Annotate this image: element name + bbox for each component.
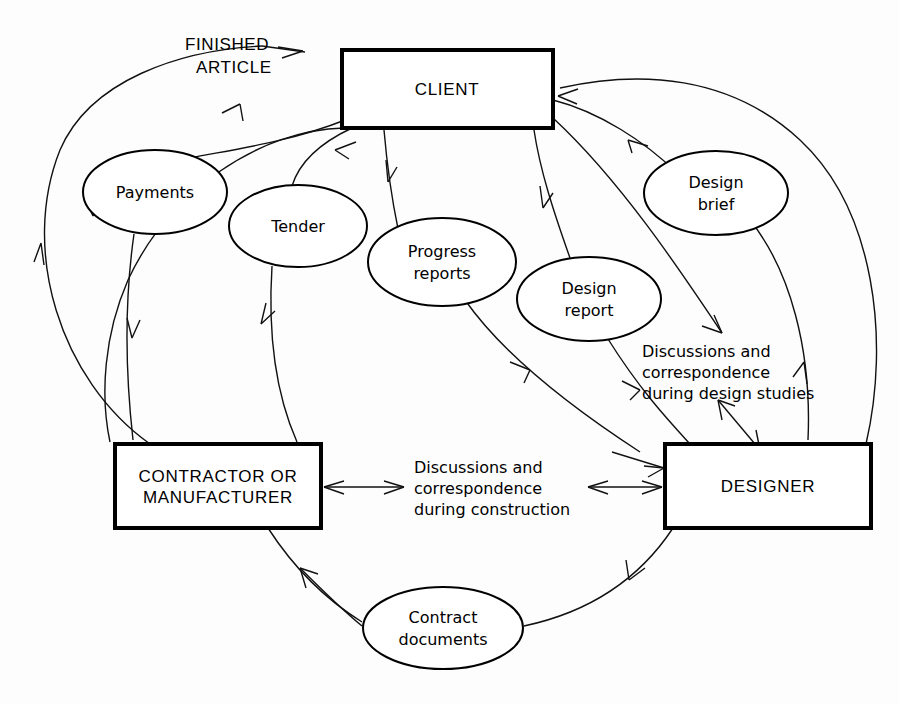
label-discussions-construction: Discussions and correspondence during co… [414,458,570,519]
contractor-label-line2: MANUFACTURER [143,488,293,507]
finished-article-line2: ARTICLE [196,58,272,77]
progress-reports-label-line1: Progress [408,242,476,261]
discussions-design-studies-line1: Discussions and [642,342,771,361]
discussions-design-studies-line2: correspondence [642,363,770,382]
payments-label: Payments [116,183,194,202]
discussions-construction-line3: during construction [414,500,570,519]
contract-documents-label-line2: documents [398,630,487,649]
node-design-brief[interactable]: Design brief [644,151,788,235]
design-report-label-line2: report [565,301,614,320]
edges-layer [34,46,877,626]
client-label: CLIENT [415,80,480,99]
contract-documents-label-line1: Contract [409,608,478,627]
node-contractor[interactable]: CONTRACTOR OR MANUFACTURER [115,444,321,528]
edge-discussions-construction-left [324,481,404,494]
edge-contractor-bottom-curve [268,528,362,622]
diagram-canvas: CLIENT CONTRACTOR OR MANUFACTURER DESIGN… [0,0,899,704]
discussions-construction-line2: correspondence [414,479,542,498]
progress-reports-label-line2: reports [413,264,470,283]
discussions-design-studies-line3: during design studies [642,384,814,403]
node-design-report[interactable]: Design report [517,257,661,341]
designer-label: DESIGNER [721,477,815,496]
node-designer[interactable]: DESIGNER [665,444,871,528]
node-payments[interactable]: Payments [83,150,227,234]
label-discussions-design-studies: Discussions and correspondence during de… [642,342,814,403]
node-progress-reports[interactable]: Progress reports [368,218,516,306]
edge-discussions-construction-right [588,481,662,494]
finished-article-line1: FINISHED [185,35,269,54]
node-tender[interactable]: Tender [229,185,367,267]
discussions-construction-line1: Discussions and [414,458,543,477]
contractor-label-line1: CONTRACTOR OR [139,467,298,486]
edge-into-designer-left [612,452,664,477]
design-brief-label-line1: Design [688,173,743,192]
design-report-label-line1: Design [561,279,616,298]
node-client[interactable]: CLIENT [342,50,553,128]
flow-diagram: CLIENT CONTRACTOR OR MANUFACTURER DESIGN… [0,0,899,704]
node-contract-documents[interactable]: Contract documents [363,587,523,669]
edge-tender [261,128,356,442]
tender-label: Tender [270,217,325,236]
label-finished-article: FINISHED ARTICLE [185,35,272,77]
design-brief-label-line2: brief [698,195,735,214]
